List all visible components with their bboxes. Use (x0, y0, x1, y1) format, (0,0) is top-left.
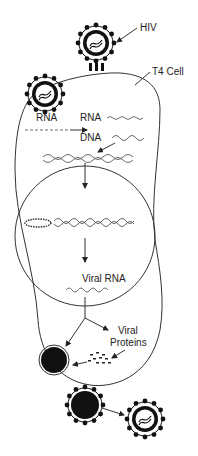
viral-rna-output-label: Viral RNA (82, 273, 126, 284)
viral-rna-label: RNA (36, 112, 57, 123)
viral-proteins-label-1: Viral (118, 325, 138, 336)
rna-label: RNA (80, 112, 101, 123)
branch-to-proteins (85, 318, 108, 330)
viral-proteins-label-2: Proteins (110, 337, 147, 348)
dsdna-arrow (98, 143, 115, 152)
budding-virion (65, 385, 106, 426)
release-arrow (102, 408, 124, 415)
hiv-virion-attaching (76, 23, 117, 64)
viral-rna-transcript (66, 288, 108, 292)
double-stranded-dna (43, 155, 133, 163)
cd4-receptors (89, 63, 104, 71)
hiv-virion-entering (25, 74, 66, 115)
hiv-label: HIV (140, 22, 157, 33)
branch-to-assembly (66, 318, 85, 346)
dna-label: DNA (80, 132, 101, 143)
hiv-lifecycle-diagram: HIV T4 Cell RNA RNA DNA Viral RNA Viral … (0, 0, 198, 456)
integrated-dna (25, 219, 134, 228)
t4-cell-pointer (135, 72, 150, 85)
assembling-virion (39, 345, 69, 375)
viral-proteins-dots (88, 352, 111, 364)
released-hiv-virion (125, 399, 166, 440)
rna-strand (107, 117, 143, 120)
dna-strand (112, 136, 144, 141)
t4-cell-label: T4 Cell (152, 66, 184, 77)
proteins-to-assembly-arrow (73, 362, 87, 365)
hiv-pointer (117, 28, 137, 42)
proteins-pointer (112, 350, 125, 358)
